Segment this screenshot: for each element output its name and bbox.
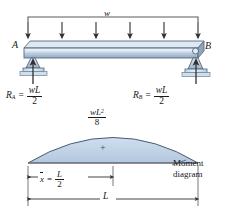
- xbar-overbar: [40, 172, 43, 173]
- moment-peak-fraction: wL2 8: [88, 108, 106, 127]
- xbar-denominator: 2: [55, 179, 64, 189]
- dimension-span-label: L: [103, 192, 108, 202]
- xbar-symbol: x: [40, 174, 44, 184]
- moment-peak-numerator-base: wL: [90, 107, 101, 117]
- moment-diagram-caption: Moment diagram: [173, 158, 204, 180]
- xbar-numerator: L: [55, 170, 64, 179]
- dimension-xbar-label: x = L 2: [40, 170, 64, 189]
- moment-caption-line1: Moment: [173, 158, 204, 169]
- beam-body: [24, 41, 204, 58]
- xbar-equals: =: [47, 175, 52, 184]
- beam-moment-figure: [0, 0, 226, 218]
- reaction-a-denominator: 2: [27, 96, 43, 107]
- reaction-a-fraction: wL 2: [27, 86, 43, 106]
- reaction-a-subscript: A: [12, 94, 16, 100]
- distributed-load-group: [28, 17, 198, 36]
- moment-caption-line2: diagram: [173, 169, 204, 180]
- reaction-a-numerator: wL: [27, 86, 43, 96]
- reaction-b-label: RB = wL 2: [133, 86, 169, 106]
- reaction-b-denominator: 2: [154, 96, 170, 107]
- support-b-label: B: [205, 41, 211, 51]
- support-a-label: A: [12, 40, 18, 50]
- reaction-b-subscript: B: [139, 94, 143, 100]
- support-b-pin: [193, 48, 199, 54]
- reaction-b-equals: =: [145, 91, 150, 101]
- reaction-b-fraction: wL 2: [154, 86, 170, 106]
- reaction-a-label: RA = wL 2: [6, 86, 42, 106]
- load-arrows: [28, 22, 198, 36]
- beam-top-face: [24, 41, 204, 48]
- moment-peak-denominator: 8: [88, 117, 106, 127]
- moment-sign-label: +: [100, 143, 106, 153]
- reaction-b-numerator: wL: [154, 86, 170, 96]
- moment-peak-numerator-exponent: 2: [101, 108, 104, 114]
- load-rail: [28, 17, 198, 22]
- beam-front-face: [24, 48, 198, 58]
- reaction-a-equals: =: [18, 91, 23, 101]
- load-label: w: [104, 9, 110, 18]
- moment-peak-label: wL2 8: [88, 108, 106, 127]
- xbar-fraction: L 2: [55, 170, 64, 189]
